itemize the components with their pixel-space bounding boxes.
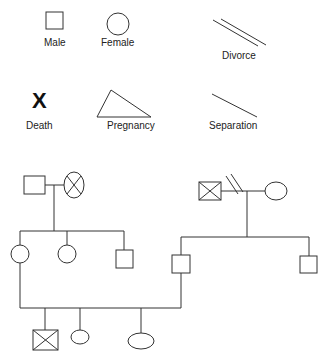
legend-pregnancy-label: Pregnancy bbox=[107, 120, 155, 131]
grandchild-female-node bbox=[71, 330, 89, 344]
daughter-2-female-node bbox=[58, 245, 76, 263]
legend-female-icon bbox=[107, 13, 129, 35]
legend-male-label: Male bbox=[44, 37, 66, 48]
grandfather-male-node bbox=[24, 176, 45, 194]
legend-separation-icon bbox=[212, 94, 257, 117]
legend-male-icon bbox=[46, 12, 63, 29]
grandfather-2-deceased-male-node bbox=[199, 182, 221, 200]
grandmother-2-female-node bbox=[265, 182, 287, 200]
grandchild-deceased-male-node bbox=[33, 330, 58, 350]
legend-death-icon: X bbox=[32, 88, 47, 114]
legend-separation-label: Separation bbox=[209, 120, 257, 131]
legend-female-label: Female bbox=[101, 37, 134, 48]
legend-death-label: Death bbox=[26, 120, 53, 131]
legend-pregnancy-icon bbox=[97, 90, 151, 117]
daughter-1-female-node bbox=[11, 245, 29, 263]
legend-divorce-icon bbox=[213, 19, 266, 46]
son-3-male-node bbox=[300, 256, 317, 273]
grandchild-female-2-node bbox=[128, 333, 154, 349]
genogram-canvas bbox=[0, 0, 329, 362]
son-male-node bbox=[116, 250, 133, 268]
legend-divorce-label: Divorce bbox=[222, 50, 256, 61]
son-2-male-node bbox=[172, 255, 190, 273]
grandmother-deceased-female-node bbox=[64, 172, 84, 198]
